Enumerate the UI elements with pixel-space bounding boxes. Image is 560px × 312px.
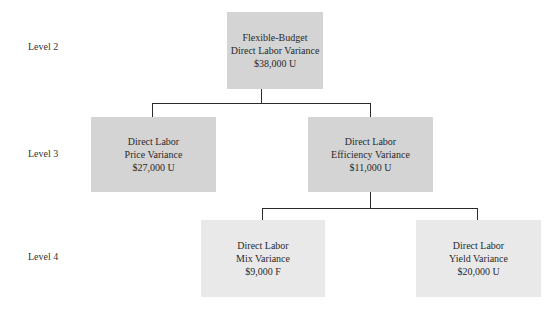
node-line1: Direct Labor [128,135,179,148]
connector-level4-bar [262,208,478,209]
node-value: $11,000 U [350,161,392,174]
node-value: $9,000 F [245,265,281,278]
price-variance-box: Direct Labor Price Variance $27,000 U [91,117,216,192]
connector-level3-bar [152,103,371,104]
connector-efficiency-stem [370,192,371,208]
node-line2: Mix Variance [236,252,290,265]
node-line1: Direct Labor [345,135,396,148]
level-2-label: Level 2 [28,41,58,52]
node-line1: Flexible-Budget [243,31,308,44]
connector-to-efficiency [370,103,371,117]
node-line2: Yield Variance [449,252,508,265]
node-line2: Direct Labor Variance [231,44,320,57]
node-line2: Price Variance [125,148,183,161]
node-line1: Direct Labor [453,239,504,252]
node-line1: Direct Labor [237,239,288,252]
node-value: $27,000 U [132,161,174,174]
yield-variance-box: Direct Labor Yield Variance $20,000 U [416,220,541,297]
node-line2: Efficiency Variance [331,148,410,161]
node-value: $38,000 U [254,57,296,70]
flexible-budget-variance-box: Flexible-Budget Direct Labor Variance $3… [227,12,323,89]
mix-variance-box: Direct Labor Mix Variance $9,000 F [201,220,325,297]
efficiency-variance-box: Direct Labor Efficiency Variance $11,000… [308,117,433,192]
connector-to-mix [262,208,263,220]
connector-to-price [152,103,153,117]
level-3-label: Level 3 [28,148,58,159]
node-value: $20,000 U [457,265,499,278]
connector-to-yield [477,208,478,220]
connector-root-stem [261,89,262,104]
level-4-label: Level 4 [28,251,58,262]
